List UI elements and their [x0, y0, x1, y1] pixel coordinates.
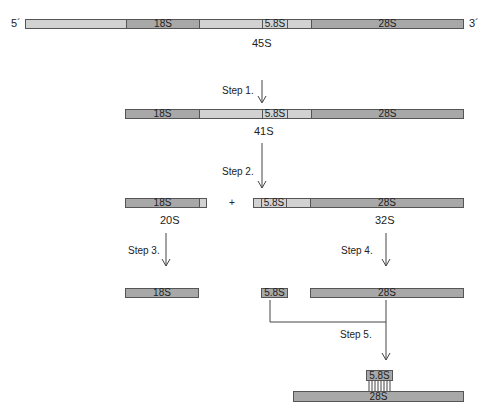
five-prime-label: 5´ — [11, 17, 21, 29]
segment-5-8s: 5.8S — [262, 20, 288, 28]
spacer-its1-remnant — [254, 199, 261, 207]
precursor-32s-bar: 5.8S 28S — [253, 198, 464, 208]
step-5-label: Step 5. — [340, 329, 372, 340]
step-2-label: Step 2. — [222, 166, 254, 177]
spacer-its2 — [287, 199, 310, 207]
label-41s: 41S — [254, 125, 274, 137]
label-45s: 45S — [252, 37, 272, 49]
spacer-its2 — [288, 110, 311, 118]
segment-28s: 28S — [311, 20, 463, 28]
mature-28s-bar: 28S — [310, 288, 464, 298]
step-3-label: Step 3. — [128, 245, 160, 256]
spacer-its1 — [199, 20, 262, 28]
segment-5-8s: 5.8S — [261, 199, 287, 207]
step-4-label: Step 4. — [341, 245, 373, 256]
segment-18s: 18S — [126, 110, 199, 118]
spacer-5ets — [26, 20, 126, 28]
segment-5-8s: 5.8S — [367, 371, 392, 380]
mature-18s-bar: 18S — [125, 288, 199, 298]
step5-bracket — [270, 300, 386, 322]
complex-5-8s-bar: 5.8S — [366, 370, 393, 381]
segment-5-8s: 5.8S — [262, 110, 288, 118]
precursor-45s-bar: 18S 5.8S 28S — [25, 19, 464, 29]
label-32s: 32S — [375, 214, 395, 226]
segment-18s: 18S — [126, 289, 198, 297]
plus-sign: + — [229, 197, 235, 208]
label-20s: 20S — [160, 214, 180, 226]
spacer-its1 — [199, 110, 262, 118]
arrows-layer — [0, 0, 480, 416]
segment-28s: 28S — [294, 392, 463, 401]
spacer-its2 — [288, 20, 311, 28]
segment-28s: 28S — [310, 199, 463, 207]
segment-28s: 28S — [311, 110, 463, 118]
three-prime-label: 3´ — [469, 17, 479, 29]
segment-18s: 18S — [126, 20, 199, 28]
spacer-its1-remnant — [199, 199, 206, 207]
segment-18s: 18S — [126, 199, 199, 207]
precursor-41s-bar: 18S 5.8S 28S — [125, 109, 464, 119]
segment-5-8s: 5.8S — [262, 289, 287, 297]
step-1-label: Step 1. — [222, 85, 254, 96]
segment-28s: 28S — [311, 289, 463, 297]
precursor-20s-bar: 18S — [125, 198, 207, 208]
complex-28s-bar: 28S — [293, 391, 464, 402]
mature-5-8s-bar: 5.8S — [261, 288, 288, 298]
